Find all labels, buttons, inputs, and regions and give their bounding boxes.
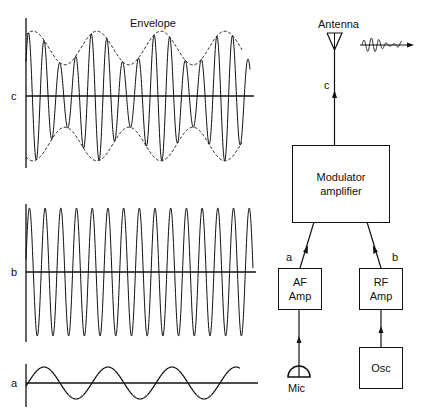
waveform-c-label: c — [11, 91, 17, 102]
af-amp-block: AF Amp — [278, 268, 322, 310]
link-a-line — [300, 222, 314, 268]
oscillator-block: Osc — [359, 347, 403, 389]
arrow-up-icon — [332, 90, 337, 98]
mic-label: Mic — [288, 383, 305, 394]
envelope-top-dashed — [26, 31, 242, 65]
rf-amp-line1: RF — [370, 275, 393, 289]
link-b-line — [367, 222, 381, 268]
envelope-label: Envelope — [130, 18, 176, 29]
link-a-label: a — [286, 252, 292, 263]
osc-label: Osc — [371, 361, 391, 375]
modulator-line2: amplifier — [317, 184, 366, 198]
af-amp-line2: Amp — [289, 289, 312, 303]
link-b-label: b — [392, 252, 398, 263]
waveform-a-label: a — [11, 378, 17, 389]
arrow-up-icon — [379, 326, 384, 333]
rf-amp-line2: Amp — [370, 289, 393, 303]
waveform-b-label: b — [11, 267, 17, 278]
link-c-label: c — [324, 80, 330, 91]
modulator-line1: Modulator — [317, 170, 366, 184]
af-amp-line1: AF — [289, 275, 312, 289]
arrow-right-icon — [407, 43, 414, 48]
arrow-up-icon — [297, 336, 302, 343]
modulator-amplifier-block: Modulator amplifier — [292, 145, 390, 223]
antenna-label: Antenna — [318, 19, 359, 30]
am-modulated-wave — [26, 33, 250, 161]
rf-amp-block: RF Amp — [359, 268, 403, 310]
